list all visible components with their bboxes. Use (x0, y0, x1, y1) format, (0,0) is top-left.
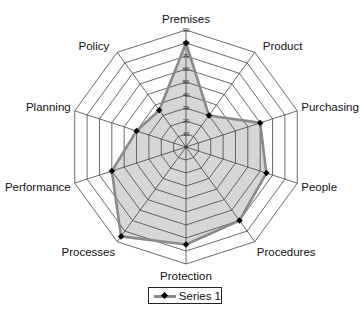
category-label: Premises (162, 13, 210, 25)
tick-label: 50 (183, 79, 190, 85)
category-label: Policy (79, 40, 110, 52)
category-label: Procedures (257, 246, 316, 258)
legend-line-marker-icon (154, 291, 173, 301)
tick-label: 10 (183, 131, 190, 137)
tick-label: 30 (183, 105, 190, 111)
category-label: Performance (5, 181, 71, 193)
category-label: Purchasing (301, 101, 359, 113)
category-label: Planning (26, 101, 71, 113)
tick-label: 40 (183, 92, 190, 98)
tick-label: 90 (183, 27, 190, 33)
tick-label: 60 (183, 66, 190, 72)
legend: Series 1 (148, 287, 222, 304)
category-label: Processes (62, 246, 116, 258)
category-label: Protection (160, 270, 212, 282)
category-label: People (301, 181, 337, 193)
legend-label: Series 1 (179, 290, 221, 302)
tick-label: 20 (183, 118, 190, 124)
radar-chart: 0102030405060708090 PremisesProductPurch… (0, 0, 361, 312)
category-label: Product (263, 40, 303, 52)
